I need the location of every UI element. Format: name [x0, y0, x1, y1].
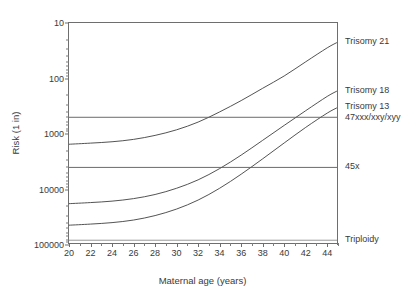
series-label-trisomy-13: Trisomy 13: [345, 101, 389, 111]
plot-area: 10100100010000100000 2022242628303234363…: [68, 22, 337, 244]
x-axis-tick-label: 36: [236, 249, 246, 258]
x-axis-tick-label: 34: [215, 249, 225, 258]
y-axis-tick-label: 100: [49, 74, 64, 83]
x-axis-tick-label: 22: [86, 249, 96, 258]
plot-right-border: [337, 22, 338, 245]
series-label-45x: 45x: [345, 161, 360, 171]
x-axis-tick-label: 24: [107, 249, 117, 258]
x-axis-tick-label: 42: [301, 249, 311, 258]
risk-by-maternal-age-chart: Risk (1 in) 10100100010000100000 2022242…: [0, 0, 419, 300]
series-label-trisomy-21: Trisomy 21: [345, 36, 389, 46]
curves-layer: [69, 23, 338, 245]
x-axis-tick-label: 30: [172, 249, 182, 258]
x-axis-tick-label: 32: [193, 249, 203, 258]
series-label-trisomy-18: Trisomy 18: [345, 85, 389, 95]
y-axis-title-text: Risk (1 in): [10, 112, 21, 155]
x-axis-tick-label: 38: [258, 249, 268, 258]
x-axis-tick-label: 40: [279, 249, 289, 258]
series-label-triploidy: Triploidy: [345, 234, 379, 244]
x-axis-minor-tick: [338, 243, 339, 246]
y-axis-tick-label: 1000: [44, 130, 64, 139]
x-axis-tick-label: 20: [64, 249, 74, 258]
series-line-trisomy-18: [69, 91, 338, 204]
y-axis-tick-label: 10: [54, 19, 64, 28]
x-axis-tick-label: 28: [150, 249, 160, 258]
y-axis-tick-label: 10000: [39, 185, 64, 194]
y-axis-title: Risk (1 in): [8, 22, 22, 244]
series-line-trisomy-21: [69, 42, 338, 144]
x-axis-tick-label: 26: [129, 249, 139, 258]
y-axis-tick-label: 100000: [34, 241, 64, 250]
series-label-47xxx-xxy-xyy: 47xxx/xxy/xyy: [345, 112, 401, 122]
series-line-trisomy-13: [69, 107, 338, 225]
x-axis-tick-label: 44: [322, 249, 332, 258]
x-axis-title: Maternal age (years): [68, 275, 337, 286]
